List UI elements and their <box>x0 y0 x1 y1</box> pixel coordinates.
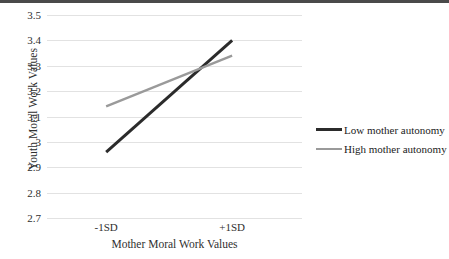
plot-area <box>47 15 302 218</box>
y-tick-label: 2.7 <box>27 212 41 224</box>
legend-item[interactable]: High mother autonomy <box>316 139 449 158</box>
y-tick-label: 3 <box>36 136 42 148</box>
legend-item[interactable]: Low mother autonomy <box>316 120 449 139</box>
y-tick-label: 2.8 <box>27 187 41 199</box>
y-tick-label: 3.5 <box>27 9 41 21</box>
legend-label: High mother autonomy <box>344 143 447 155</box>
legend-swatch-icon <box>316 148 342 150</box>
y-axis-tick-labels: 3.53.43.33.23.132.92.82.7 <box>0 15 44 218</box>
x-axis-tick-labels: -1SD+1SD <box>47 221 302 237</box>
y-tick-label: 3.4 <box>27 34 41 46</box>
series-line <box>106 56 232 107</box>
y-tick-label: 2.9 <box>27 161 41 173</box>
chart-legend: Low mother autonomyHigh mother autonomy <box>316 120 449 158</box>
legend-swatch-icon <box>316 128 342 131</box>
chart-figure: Youth Moral Work Values 3.53.43.33.23.13… <box>0 0 449 259</box>
x-tick-label: -1SD <box>95 221 118 233</box>
x-axis-title: Mother Moral Work Values <box>47 238 302 250</box>
series-line <box>106 40 232 152</box>
figure-top-border <box>0 0 449 3</box>
series-layer <box>47 15 302 218</box>
y-tick-label: 3.3 <box>27 60 41 72</box>
y-tick-label: 3.1 <box>27 111 41 123</box>
y-tick-label: 3.2 <box>27 85 41 97</box>
x-tick-label: +1SD <box>219 221 245 233</box>
gridline <box>47 218 302 219</box>
legend-label: Low mother autonomy <box>344 124 445 136</box>
